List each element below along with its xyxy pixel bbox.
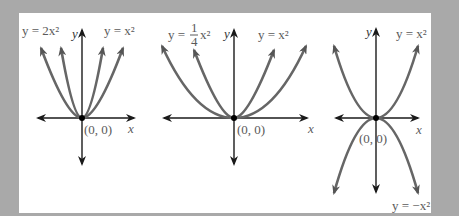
curve-neg-x2-right — [376, 118, 418, 193]
origin-point — [231, 115, 237, 121]
label-y-axis: y — [364, 24, 372, 39]
curve-x2-right — [234, 50, 274, 118]
origin-point — [79, 115, 85, 121]
label-x-axis: x — [307, 121, 314, 136]
graph-1: y = 2x² y = x² y x (0, 0) — [22, 23, 135, 164]
label-origin: (0, 0) — [237, 122, 265, 137]
parabola-figure: y = 2x² y = x² y x (0, 0) y = 1 4 x² y =… — [0, 0, 459, 216]
curve-x2-right — [376, 46, 418, 118]
curve-2x2-left — [61, 48, 82, 118]
curve-x2-right — [82, 48, 123, 118]
label-y-x2: y = x² — [258, 27, 289, 42]
label-frac-num: 1 — [191, 20, 198, 35]
label-y-axis: y — [70, 26, 78, 41]
label-y-x2: y = x² — [104, 23, 135, 38]
label-y-prefix: y = — [168, 27, 185, 42]
label-y-axis: y — [222, 26, 230, 41]
label-y-neg-x2: y = −x² — [392, 198, 430, 213]
label-y-x2: y = x² — [396, 26, 427, 41]
origin-point — [373, 115, 379, 121]
label-origin: (0, 0) — [84, 122, 112, 137]
curve-x2-left — [41, 48, 82, 118]
graph-3: y = x² y = −x² y x (0, 0) — [334, 24, 430, 213]
curve-x2-left — [334, 46, 376, 118]
curve-neg-x2-left — [334, 118, 376, 193]
label-origin: (0, 0) — [359, 131, 387, 146]
graph-2: y = 1 4 x² y = x² y x (0, 0) — [162, 20, 314, 164]
label-x-axis: x — [127, 121, 134, 136]
label-frac-den: 4 — [191, 34, 198, 49]
label-frac-suffix: x² — [200, 27, 211, 42]
curve-2x2-right — [82, 48, 103, 118]
label-y-2x2: y = 2x² — [22, 23, 59, 38]
curve-x2-left — [194, 50, 234, 118]
label-x-axis: x — [415, 122, 422, 137]
